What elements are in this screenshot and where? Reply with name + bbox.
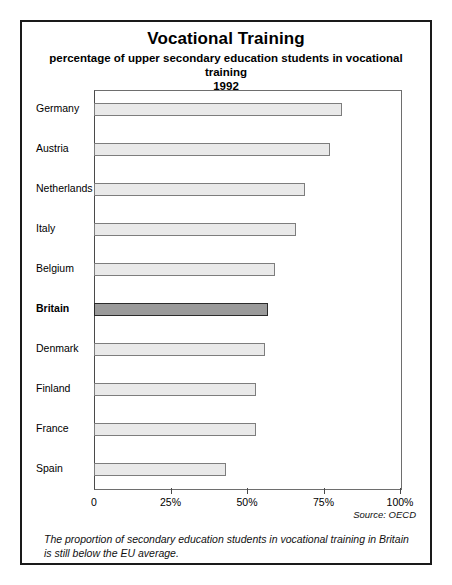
x-axis-tick-label: 75%: [313, 496, 334, 508]
category-label-britain: Britain: [22, 290, 86, 330]
bars-container: [94, 90, 400, 488]
chart-caption: The proportion of secondary education st…: [44, 532, 412, 560]
bar-germany: [94, 103, 342, 116]
bar-row: [94, 370, 400, 410]
category-label-denmark: Denmark: [22, 330, 86, 370]
category-label-netherlands: Netherlands: [22, 170, 86, 210]
category-label-text: Italy: [36, 222, 55, 235]
bar-austria: [94, 143, 330, 156]
source-label: Source: OECD: [353, 509, 416, 520]
category-label-germany: Germany: [22, 90, 86, 130]
bar-row: [94, 290, 400, 330]
category-label-text: Netherlands: [36, 182, 93, 195]
plot-area: GermanyAustriaNetherlandsItalyBelgiumBri…: [22, 90, 430, 505]
chart-subtitle: percentage of upper secondary education …: [22, 49, 430, 79]
bar-france: [94, 423, 256, 436]
category-label-italy: Italy: [22, 210, 86, 250]
category-label-text: Finland: [36, 382, 70, 395]
bar-row: [94, 450, 400, 490]
bar-row: [94, 130, 400, 170]
category-label-text: Belgium: [36, 262, 74, 275]
chart-header: Vocational Training percentage of upper …: [22, 22, 430, 93]
bar-row: [94, 410, 400, 450]
bar-spain: [94, 463, 226, 476]
bar-row: [94, 330, 400, 370]
bar-belgium: [94, 263, 275, 276]
category-label-belgium: Belgium: [22, 250, 86, 290]
x-axis-tick-label: 0: [91, 496, 97, 508]
category-label-text: Spain: [36, 462, 63, 475]
category-label-text: Germany: [36, 102, 79, 115]
bar-row: [94, 90, 400, 130]
x-axis-tick-label: 50%: [236, 496, 257, 508]
category-label-text: Denmark: [36, 342, 79, 355]
category-label-austria: Austria: [22, 130, 86, 170]
x-axis-tick: [324, 488, 325, 494]
bar-row: [94, 210, 400, 250]
bar-finland: [94, 383, 256, 396]
bar-britain: [94, 303, 268, 316]
category-label-text: Austria: [36, 142, 69, 155]
bar-netherlands: [94, 183, 305, 196]
chart-title: Vocational Training: [22, 29, 430, 49]
bar-denmark: [94, 343, 265, 356]
x-axis-tick: [247, 488, 248, 494]
category-label-text: France: [36, 422, 69, 435]
category-label-text: Britain: [36, 302, 69, 315]
x-axis-tick-label: 100%: [387, 496, 414, 508]
x-axis-tick: [171, 488, 172, 494]
bar-row: [94, 250, 400, 290]
bar-row: [94, 170, 400, 210]
category-label-finland: Finland: [22, 370, 86, 410]
category-label-spain: Spain: [22, 450, 86, 490]
bar-italy: [94, 223, 296, 236]
x-axis-tick-label: 25%: [160, 496, 181, 508]
category-label-france: France: [22, 410, 86, 450]
chart-figure: Vocational Training percentage of upper …: [20, 20, 432, 565]
category-axis-labels: GermanyAustriaNetherlandsItalyBelgiumBri…: [22, 90, 94, 488]
x-axis-tick: [400, 488, 401, 494]
